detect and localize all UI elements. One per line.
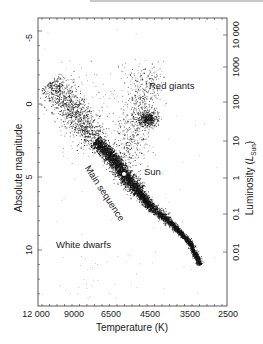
y-left-tick: -5 xyxy=(24,34,34,42)
y-right-title-symbol: L xyxy=(244,156,255,162)
y-right-tick: 10 000 xyxy=(231,21,241,49)
x-tick: 6500 xyxy=(101,309,121,319)
y-left-tick: 10 xyxy=(24,245,34,255)
y-right-axis-title: Luminosity (LSun) xyxy=(244,141,257,215)
annotation-red-giants: Red giants xyxy=(149,80,194,91)
x-tick: 9000 xyxy=(64,309,84,319)
y-right-title-text: Luminosity ( xyxy=(244,161,255,215)
y-right-title-subscript: Sun xyxy=(250,144,257,156)
y-right-tick: 0.1 xyxy=(231,208,241,221)
x-axis-title: Temperature (K) xyxy=(96,322,168,333)
annotation-sun: Sun xyxy=(144,166,161,177)
y-left-tick: 5 xyxy=(24,174,34,179)
x-tick: 12 000 xyxy=(22,309,50,319)
x-tick: 3500 xyxy=(180,309,200,319)
sun-marker xyxy=(122,172,126,176)
x-tick: 4500 xyxy=(140,309,160,319)
y-right-tick: 10 xyxy=(231,136,241,146)
annotation-white-dwarfs: White dwarfs xyxy=(56,239,111,250)
y-left-axis-title: Absolute magnitude xyxy=(13,124,24,212)
scatter-points xyxy=(40,21,225,299)
y-right-tick: 1000 xyxy=(231,57,241,77)
y-right-title-close: ) xyxy=(244,141,255,144)
y-right-tick: 100 xyxy=(231,94,241,109)
y-right-tick: 1 xyxy=(231,175,241,180)
x-tick: 2500 xyxy=(218,309,238,319)
y-left-tick: 0 xyxy=(24,101,34,106)
hr-diagram-plot xyxy=(0,0,263,344)
y-right-tick: 0.01 xyxy=(231,243,241,261)
